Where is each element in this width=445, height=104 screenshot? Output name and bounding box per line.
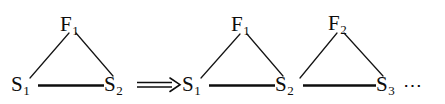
- node-base-left-s2: S: [104, 72, 116, 96]
- node-subscript-right-s3: 3: [388, 83, 395, 98]
- edge-f1-s2-right: [247, 34, 283, 76]
- node-label-left-s1: S1: [11, 74, 30, 97]
- node-subscript-right-s1: 1: [194, 83, 201, 98]
- node-label-right-f2: F2: [328, 13, 347, 36]
- node-label-right-s2: S2: [275, 74, 294, 97]
- node-base-right-s3: S: [376, 72, 388, 96]
- diagram-canvas: F1 S1 S2 F1 F2 S1 S2 S3 ⋯: [0, 0, 445, 104]
- node-subscript-right-f2: 2: [340, 22, 347, 37]
- node-subscript-right-f1: 1: [243, 23, 250, 38]
- node-label-right-s3: S3: [376, 74, 395, 97]
- node-base-left-s1: S: [11, 72, 23, 96]
- node-base-left-f1: F: [60, 12, 72, 36]
- node-label-right-s1: S1: [182, 74, 201, 97]
- node-base-right-s2: S: [275, 72, 287, 96]
- node-label-right-f1: F1: [231, 14, 250, 37]
- continuation-ellipsis: ⋯: [403, 76, 423, 95]
- node-base-right-f1: F: [231, 12, 243, 36]
- edge-f2-s3-right: [344, 33, 383, 76]
- node-subscript-left-f1: 1: [72, 23, 79, 38]
- node-base-right-s1: S: [182, 72, 194, 96]
- edge-s1-f1-left: [30, 33, 69, 78]
- edge-s1-f1-right: [201, 34, 240, 78]
- node-label-left-f1: F1: [60, 14, 79, 37]
- edge-f1-s2-left: [76, 33, 113, 76]
- node-subscript-left-s2: 2: [116, 83, 123, 98]
- double-right-arrow-icon: [137, 78, 180, 92]
- left-graph-edges: [30, 33, 113, 86]
- node-subscript-left-s1: 1: [23, 83, 30, 98]
- node-base-right-f2: F: [328, 11, 340, 35]
- node-label-left-s2: S2: [104, 74, 123, 97]
- edge-s2-f2-right: [300, 33, 337, 78]
- node-subscript-right-s2: 2: [287, 83, 294, 98]
